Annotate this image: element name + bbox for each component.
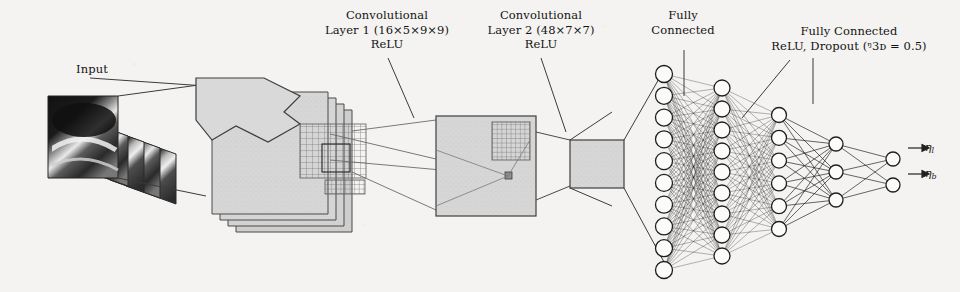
label-conv2-line-2: Layer 2 (48×7×7) bbox=[466, 23, 616, 38]
fc-column-2-node-5 bbox=[714, 164, 730, 180]
fc-column-2-node-6 bbox=[714, 185, 730, 201]
conv2-to-flatten-leaders bbox=[536, 132, 570, 200]
conv1-feature-maps bbox=[196, 78, 366, 232]
label-input: Input bbox=[52, 62, 132, 77]
input-frame-stack bbox=[48, 96, 176, 204]
conv2-feature-map bbox=[436, 116, 536, 216]
fc-column-4 bbox=[829, 137, 843, 207]
fc-column-4-node-1 bbox=[829, 137, 843, 151]
fc-column-2-node-4 bbox=[714, 143, 730, 159]
fc-column-2-node-7 bbox=[714, 206, 730, 222]
label-conv-layer-2: Convolutional Layer 2 (48×7×7) ReLU bbox=[466, 8, 616, 52]
output-symbol-2: η bbox=[925, 167, 932, 180]
fc-column-2-node-3 bbox=[714, 122, 730, 138]
fc-column-1-node-2 bbox=[656, 87, 673, 104]
fc-column-1-node-7 bbox=[656, 196, 673, 213]
label-fc1-line-1: Fully bbox=[628, 8, 738, 23]
label-fc2-line-1: Fully Connected bbox=[740, 24, 958, 39]
flatten-block bbox=[570, 140, 624, 188]
fc-column-1-node-4 bbox=[656, 131, 673, 148]
fc-column-1 bbox=[656, 66, 673, 279]
fc-column-1-node-6 bbox=[656, 174, 673, 191]
fc-column-5-node-2 bbox=[886, 178, 900, 192]
fc-column-2-node-8 bbox=[714, 227, 730, 243]
conv1-front-sheet bbox=[196, 78, 300, 142]
fc-column-4-node-3 bbox=[829, 193, 843, 207]
label-conv2-line-1: Convolutional bbox=[466, 8, 616, 23]
output-label-eta-1: ηl bbox=[925, 141, 934, 155]
label-input-line-1: Input bbox=[52, 62, 132, 77]
fc-column-3-node-4 bbox=[772, 176, 787, 191]
fc-column-3-node-2 bbox=[772, 130, 787, 145]
fc-column-4-node-2 bbox=[829, 165, 843, 179]
fc-column-3-node-1 bbox=[772, 108, 787, 123]
fc-column-1-node-1 bbox=[656, 66, 673, 83]
input-label-rule bbox=[90, 78, 206, 86]
fc-column-2-node-9 bbox=[714, 248, 730, 264]
fc-column-3 bbox=[772, 108, 787, 237]
fc-column-1-node-9 bbox=[656, 240, 673, 257]
output-subscript-1: l bbox=[932, 146, 935, 155]
label-conv1-line-2: Layer 1 (16×5×9×9) bbox=[312, 23, 462, 38]
fc-column-5 bbox=[886, 152, 900, 192]
fc-column-1-node-3 bbox=[656, 109, 673, 126]
output-subscript-2: b bbox=[932, 172, 937, 181]
label-fully-connected-2: Fully Connected ReLU, Dropout (ᵑ3ᴅ = 0.5… bbox=[740, 24, 958, 53]
fc-column-3-node-3 bbox=[772, 153, 787, 168]
fc-column-5-node-1 bbox=[886, 152, 900, 166]
fc-column-1-node-10 bbox=[656, 262, 673, 279]
fc-column-2 bbox=[714, 80, 730, 264]
output-label-eta-2: ηb bbox=[925, 167, 937, 181]
fc-column-1-node-8 bbox=[656, 218, 673, 235]
label-fc1-line-2: Connected bbox=[628, 23, 738, 38]
label-conv1-line-3: ReLU bbox=[312, 37, 462, 52]
fc-column-2-node-2 bbox=[714, 101, 730, 117]
label-conv-layer-1: Convolutional Layer 1 (16×5×9×9) ReLU bbox=[312, 8, 462, 52]
fc-column-1-node-5 bbox=[656, 153, 673, 170]
figure-canvas: Input Convolutional Layer 1 (16×5×9×9) R… bbox=[0, 0, 960, 292]
label-conv1-line-1: Convolutional bbox=[312, 8, 462, 23]
input-frame-1 bbox=[48, 96, 118, 178]
fc-column-3-node-6 bbox=[772, 222, 787, 237]
fc-column-3-node-5 bbox=[772, 199, 787, 214]
label-conv2-line-3: ReLU bbox=[466, 37, 616, 52]
fc-nodes bbox=[656, 66, 901, 279]
output-symbol-1: η bbox=[925, 141, 932, 154]
label-fc2-line-2: ReLU, Dropout (ᵑ3ᴅ = 0.5) bbox=[740, 39, 958, 54]
fc-column-2-node-1 bbox=[714, 80, 730, 96]
label-fully-connected-1: Fully Connected bbox=[628, 8, 738, 37]
fc-edges bbox=[664, 74, 893, 270]
